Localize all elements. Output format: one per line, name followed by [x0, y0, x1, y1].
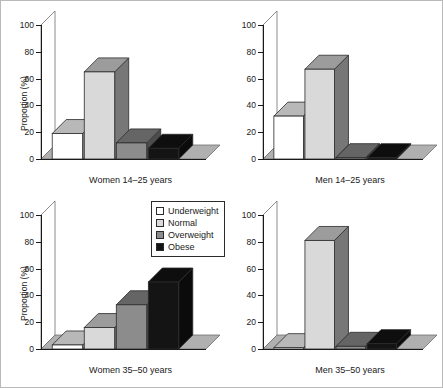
legend-item-normal[interactable]: Normal	[156, 217, 219, 229]
legend-swatch-icon	[156, 219, 164, 227]
panel-x-label: Men 35–50 years	[263, 365, 437, 375]
panel-x-label: Men 14–25 years	[263, 175, 437, 185]
legend-item-label: Underweight	[168, 207, 219, 216]
panel-x-label: Women 35–50 years	[41, 365, 220, 375]
chart-legend: UnderweightNormalOverweightObese	[151, 201, 225, 257]
legend-swatch-icon	[156, 207, 164, 215]
legend-swatch-icon	[156, 231, 164, 239]
panel-x-label: Women 14–25 years	[41, 175, 220, 185]
bar-obese	[229, 9, 439, 197]
legend-item-label: Normal	[168, 219, 197, 228]
bar-obese	[229, 199, 439, 385]
x-axis-line	[41, 159, 206, 160]
legend-item-obese[interactable]: Obese	[156, 241, 219, 253]
legend-item-label: Overweight	[168, 231, 214, 240]
chart-panel-4: 020406080100Men 35–50 years	[229, 199, 439, 385]
legend-item-label: Obese	[168, 243, 195, 252]
x-axis-line	[263, 349, 423, 350]
legend-swatch-icon	[156, 243, 164, 251]
chart-panel-2: 020406080100Men 14–25 years	[229, 9, 439, 197]
x-axis-line	[263, 159, 423, 160]
figure-panel-grid: 020406080100Proportion (%)Women 14–25 ye…	[0, 0, 443, 388]
bar-obese	[7, 9, 222, 197]
legend-item-overweight[interactable]: Overweight	[156, 229, 219, 241]
x-axis-line	[41, 349, 206, 350]
legend-item-underweight[interactable]: Underweight	[156, 205, 219, 217]
chart-panel-1: 020406080100Proportion (%)Women 14–25 ye…	[7, 9, 222, 197]
